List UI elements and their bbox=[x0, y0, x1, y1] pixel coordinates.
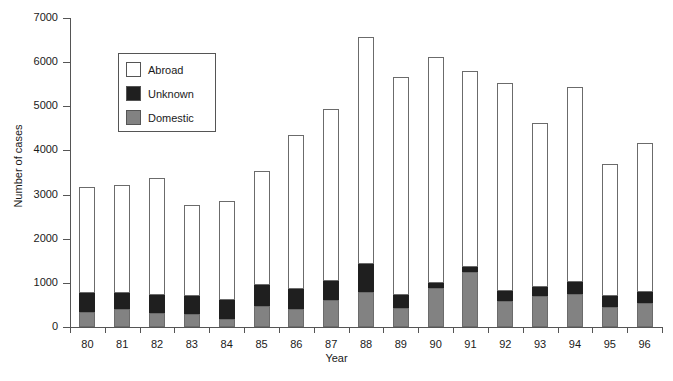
x-axis-line bbox=[70, 327, 662, 328]
bar-86 bbox=[288, 135, 304, 327]
bar-94 bbox=[567, 87, 583, 327]
x-tick-mark bbox=[279, 327, 280, 333]
y-axis-title: Number of cases bbox=[12, 96, 24, 236]
bar-segment-abroad bbox=[114, 185, 130, 293]
y-tick-mark bbox=[63, 106, 70, 107]
bar-segment-domestic bbox=[219, 319, 235, 327]
bar-segment-unknown bbox=[79, 293, 95, 312]
bar-segment-domestic bbox=[532, 296, 548, 327]
bar-segment-unknown bbox=[393, 295, 409, 308]
bar-segment-abroad bbox=[288, 135, 304, 290]
x-tick-mark bbox=[349, 327, 350, 333]
y-tick-mark bbox=[63, 283, 70, 284]
bar-segment-abroad bbox=[254, 171, 270, 285]
y-tick-mark bbox=[63, 195, 70, 196]
legend-item-unknown: Unknown bbox=[126, 86, 194, 101]
bar-segment-abroad bbox=[602, 164, 618, 296]
bar-segment-abroad bbox=[393, 77, 409, 296]
bar-segment-domestic bbox=[79, 312, 95, 327]
bar-segment-abroad bbox=[79, 187, 95, 293]
bar-segment-abroad bbox=[184, 205, 200, 296]
bar-segment-abroad bbox=[462, 71, 478, 267]
bar-segment-domestic bbox=[323, 300, 339, 327]
legend-label-abroad: Abroad bbox=[148, 64, 183, 76]
y-tick-mark bbox=[63, 150, 70, 151]
x-tick-mark bbox=[558, 327, 559, 333]
bar-88 bbox=[358, 37, 374, 327]
bar-segment-abroad bbox=[358, 37, 374, 264]
bar-segment-unknown bbox=[254, 285, 270, 306]
y-tick-label: 0 bbox=[6, 320, 58, 332]
legend-swatch-abroad bbox=[126, 62, 141, 77]
legend-label-unknown: Unknown bbox=[148, 88, 194, 100]
x-tick-label: 96 bbox=[625, 338, 665, 350]
y-tick-label: 1000 bbox=[6, 276, 58, 288]
bar-segment-unknown bbox=[497, 291, 513, 301]
x-tick-mark bbox=[383, 327, 384, 333]
x-tick-mark bbox=[453, 327, 454, 333]
x-tick-mark bbox=[662, 327, 663, 333]
bar-segment-domestic bbox=[149, 313, 165, 327]
bar-segment-domestic bbox=[602, 307, 618, 327]
bar-89 bbox=[393, 77, 409, 327]
x-tick-mark bbox=[140, 327, 141, 333]
y-tick-label: 7000 bbox=[6, 11, 58, 23]
bar-segment-domestic bbox=[428, 288, 444, 327]
bar-96 bbox=[637, 143, 653, 327]
bar-91 bbox=[462, 71, 478, 327]
x-tick-mark bbox=[592, 327, 593, 333]
bar-segment-unknown bbox=[114, 293, 130, 309]
y-axis-line bbox=[70, 18, 71, 327]
bar-chart: Number of cases 010002000300040005000600… bbox=[0, 0, 673, 381]
bar-segment-abroad bbox=[497, 83, 513, 291]
bar-segment-unknown bbox=[567, 282, 583, 295]
x-axis-title: Year bbox=[0, 352, 673, 364]
bar-segment-domestic bbox=[254, 306, 270, 327]
bar-segment-domestic bbox=[567, 294, 583, 327]
bar-segment-unknown bbox=[358, 264, 374, 291]
bar-segment-domestic bbox=[637, 303, 653, 327]
bar-segment-domestic bbox=[288, 309, 304, 327]
x-tick-mark bbox=[174, 327, 175, 333]
legend-item-abroad: Abroad bbox=[126, 62, 183, 77]
bar-segment-unknown bbox=[602, 296, 618, 307]
bar-segment-domestic bbox=[114, 309, 130, 327]
bar-segment-unknown bbox=[288, 289, 304, 309]
bar-92 bbox=[497, 83, 513, 327]
bar-87 bbox=[323, 109, 339, 328]
y-tick-label: 5000 bbox=[6, 99, 58, 111]
bar-90 bbox=[428, 57, 444, 327]
x-tick-mark bbox=[418, 327, 419, 333]
bar-segment-domestic bbox=[497, 301, 513, 327]
bar-segment-abroad bbox=[428, 57, 444, 283]
bar-segment-domestic bbox=[184, 314, 200, 327]
x-tick-mark bbox=[523, 327, 524, 333]
x-tick-mark bbox=[314, 327, 315, 333]
bar-85 bbox=[254, 171, 270, 327]
bar-84 bbox=[219, 201, 235, 327]
bar-segment-unknown bbox=[219, 300, 235, 319]
y-tick-mark bbox=[63, 239, 70, 240]
bar-82 bbox=[149, 178, 165, 327]
bar-segment-unknown bbox=[323, 281, 339, 300]
bar-segment-domestic bbox=[393, 308, 409, 327]
bar-segment-domestic bbox=[358, 292, 374, 327]
x-tick-mark bbox=[488, 327, 489, 333]
bar-segment-unknown bbox=[637, 292, 653, 303]
y-tick-label: 4000 bbox=[6, 143, 58, 155]
bar-segment-unknown bbox=[532, 287, 548, 296]
y-tick-label: 6000 bbox=[6, 55, 58, 67]
legend-label-domestic: Domestic bbox=[148, 112, 194, 124]
y-tick-mark bbox=[63, 62, 70, 63]
y-tick-mark bbox=[63, 18, 70, 19]
y-tick-label: 2000 bbox=[6, 232, 58, 244]
x-tick-mark bbox=[209, 327, 210, 333]
legend-swatch-domestic bbox=[126, 110, 141, 125]
legend: Abroad Unknown Domestic bbox=[118, 53, 216, 132]
x-tick-mark bbox=[70, 327, 71, 333]
bar-segment-abroad bbox=[149, 178, 165, 295]
x-tick-mark bbox=[627, 327, 628, 333]
bar-segment-unknown bbox=[184, 296, 200, 314]
bar-segment-domestic bbox=[462, 272, 478, 327]
bar-83 bbox=[184, 205, 200, 327]
